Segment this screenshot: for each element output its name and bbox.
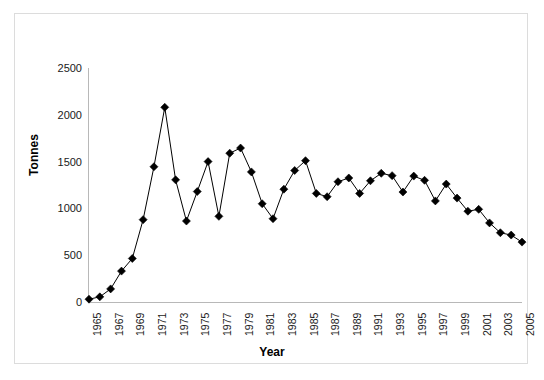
data-point-marker (442, 180, 450, 188)
data-point-marker (161, 103, 169, 111)
data-point-marker (377, 169, 385, 177)
y-axis-tick-label: 500 (38, 250, 82, 261)
x-axis-tick-label: 1981 (265, 313, 276, 336)
data-point-marker (421, 176, 429, 184)
data-point-marker (215, 212, 223, 220)
x-axis-tick-label: 1989 (352, 313, 363, 336)
x-axis-tick-label: 1999 (460, 313, 471, 336)
data-point-marker (172, 176, 180, 184)
x-axis-tick-label: 1965 (92, 313, 103, 336)
data-point-marker (96, 293, 104, 301)
data-point-marker (345, 174, 353, 182)
x-axis-tick-label: 1993 (395, 313, 406, 336)
data-point-marker (193, 188, 201, 196)
x-axis-tick-label: 1971 (157, 313, 168, 336)
data-point-marker (182, 217, 190, 225)
data-point-marker (226, 149, 234, 157)
series-canvas (89, 68, 522, 302)
series-line (89, 107, 522, 299)
data-point-marker (107, 285, 115, 293)
x-axis-tick-label: 1967 (114, 313, 125, 336)
line-chart: Tonnes 25002000150010005000 196519671969… (0, 0, 544, 380)
data-point-marker (258, 200, 266, 208)
x-axis-ticks: 1965196719691971197319751977197919811983… (88, 304, 521, 344)
y-axis-tick-label: 2000 (38, 110, 82, 121)
x-axis-tick-label: 2003 (503, 313, 514, 336)
x-axis-tick-label: 1991 (373, 313, 384, 336)
data-point-marker (247, 168, 255, 176)
data-point-marker (388, 172, 396, 180)
x-axis-tick-label: 1973 (179, 313, 190, 336)
data-point-marker (399, 188, 407, 196)
data-point-marker (280, 185, 288, 193)
x-axis-tick-label: 1975 (200, 313, 211, 336)
x-axis-tick-label: 1987 (330, 313, 341, 336)
x-axis-tick-label: 1969 (135, 313, 146, 336)
series-markers (85, 103, 526, 303)
x-axis-tick-label: 1977 (222, 313, 233, 336)
y-axis-tick-label: 1000 (38, 203, 82, 214)
data-point-marker (85, 295, 93, 303)
data-point-marker (334, 178, 342, 186)
y-axis-ticks: 25002000150010005000 (36, 68, 82, 302)
data-point-marker (410, 172, 418, 180)
data-point-marker (507, 231, 515, 239)
x-axis-tick-label: 1995 (417, 313, 428, 336)
data-point-marker (518, 238, 526, 246)
x-axis-tick-label: 1979 (244, 313, 255, 336)
data-point-marker (150, 163, 158, 171)
chart-screenshot: Tonnes 25002000150010005000 196519671969… (0, 0, 544, 380)
data-point-marker (237, 144, 245, 152)
x-axis-tick-label: 1997 (438, 313, 449, 336)
data-point-marker (204, 158, 212, 166)
data-point-marker (312, 189, 320, 197)
data-point-marker (431, 197, 439, 205)
x-axis-tick-label: 2005 (525, 313, 536, 336)
data-point-marker (269, 215, 277, 223)
data-point-marker (323, 193, 331, 201)
y-axis-tick-label: 0 (38, 297, 82, 308)
x-axis-tick-label: 1985 (309, 313, 320, 336)
plot-area (88, 68, 522, 303)
y-axis-tick-label: 2500 (38, 63, 82, 74)
data-point-marker (139, 216, 147, 224)
x-axis-tick-label: 1983 (287, 313, 298, 336)
x-axis-tick-label: 2001 (482, 313, 493, 336)
y-axis-tick-label: 1500 (38, 157, 82, 168)
x-axis-title: Year (0, 345, 544, 359)
